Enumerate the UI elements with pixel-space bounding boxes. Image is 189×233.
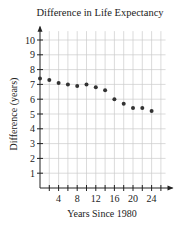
data-point bbox=[47, 78, 51, 82]
data-point bbox=[75, 84, 79, 88]
data-point bbox=[112, 97, 116, 101]
y-tick-label: 2 bbox=[30, 153, 35, 164]
y-tick-label: 3 bbox=[30, 138, 35, 149]
y-axis-label: Difference (years) bbox=[8, 78, 20, 151]
data-point bbox=[131, 106, 135, 110]
axes bbox=[38, 26, 174, 191]
data-point bbox=[57, 81, 61, 85]
grid bbox=[40, 31, 166, 188]
x-axis-arrow-icon bbox=[168, 186, 174, 191]
data-point bbox=[140, 106, 144, 110]
y-tick-label: 10 bbox=[25, 35, 35, 46]
data-point bbox=[103, 88, 107, 92]
x-tick-label: 20 bbox=[128, 193, 138, 204]
y-tick-label: 1 bbox=[30, 168, 35, 179]
data-point bbox=[150, 109, 154, 113]
data-point bbox=[85, 82, 89, 86]
x-tick-label: 24 bbox=[147, 193, 157, 204]
x-tick-label: 8 bbox=[75, 193, 80, 204]
y-tick-label: 6 bbox=[30, 94, 35, 105]
x-tick-label: 12 bbox=[91, 193, 101, 204]
y-tick-label: 9 bbox=[30, 49, 35, 60]
y-tick-label: 8 bbox=[30, 64, 35, 75]
data-point bbox=[122, 102, 126, 106]
y-tick-label: 4 bbox=[30, 123, 35, 134]
y-tick-label: 7 bbox=[30, 79, 35, 90]
y-tick-label: 5 bbox=[30, 109, 35, 120]
x-tick-label: 4 bbox=[56, 193, 61, 204]
data-point bbox=[38, 76, 42, 80]
x-axis-label: Years Since 1980 bbox=[67, 208, 137, 219]
scatter-chart: Difference in Life Expectancy 1234567891… bbox=[0, 0, 189, 233]
y-axis-arrow-icon bbox=[38, 26, 43, 32]
x-tick-label: 16 bbox=[109, 193, 119, 204]
chart-title: Difference in Life Expectancy bbox=[36, 7, 164, 18]
data-point bbox=[94, 85, 98, 89]
data-point bbox=[66, 82, 70, 86]
